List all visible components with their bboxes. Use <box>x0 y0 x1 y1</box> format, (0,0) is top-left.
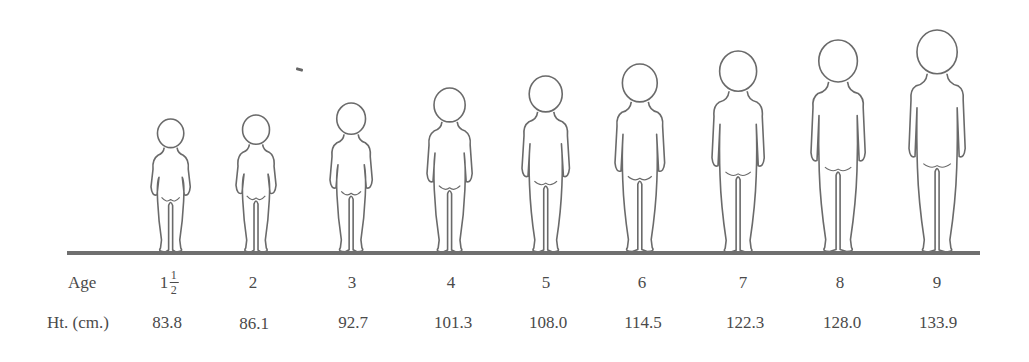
age-cell-3: 3 <box>348 273 357 293</box>
age-cell-2: 2 <box>249 273 258 293</box>
fraction-numerator: 1 <box>171 269 177 281</box>
height-cell-6: 114.5 <box>624 313 662 333</box>
height-cell-2: 86.1 <box>239 314 269 334</box>
child-figure-age-6 <box>608 64 672 252</box>
age-cell-7: 7 <box>739 273 748 293</box>
growth-figure: Age 112 2 3 4 5 6 7 8 9 Ht. (cm.) 83.8 8… <box>0 0 1029 362</box>
age-fraction: 12 <box>169 269 178 296</box>
child-figure-age-4 <box>420 88 479 252</box>
age-cell-6: 6 <box>638 273 647 293</box>
age-cell-8: 8 <box>836 273 845 293</box>
print-speck <box>296 67 304 72</box>
age-whole: 1 <box>160 273 169 292</box>
height-cell-8: 128.0 <box>823 313 861 333</box>
height-cell-7: 122.3 <box>726 313 764 333</box>
child-figure-age-9 <box>902 30 972 252</box>
age-cell-5: 5 <box>542 273 551 293</box>
ground-baseline <box>67 251 980 255</box>
age-cell-1-5: 112 <box>160 271 179 298</box>
height-cell-1-5: 83.8 <box>152 313 182 333</box>
height-cell-5: 108.0 <box>529 313 567 333</box>
height-cell-3: 92.7 <box>338 313 368 333</box>
age-cell-4: 4 <box>447 273 456 293</box>
child-figure-age-8 <box>804 40 872 252</box>
fraction-denominator: 2 <box>171 284 177 296</box>
child-figure-age-5 <box>515 76 576 252</box>
child-figure-age-7 <box>705 51 771 252</box>
child-figure-age-1 <box>144 119 197 252</box>
child-figure-age-2 <box>229 115 283 252</box>
age-row-label: Age <box>68 273 96 293</box>
child-figure-age-3 <box>323 103 379 252</box>
height-row-label: Ht. (cm.) <box>47 313 109 333</box>
height-cell-4: 101.3 <box>434 313 472 333</box>
age-cell-9: 9 <box>933 273 942 293</box>
height-cell-9: 133.9 <box>919 313 957 333</box>
